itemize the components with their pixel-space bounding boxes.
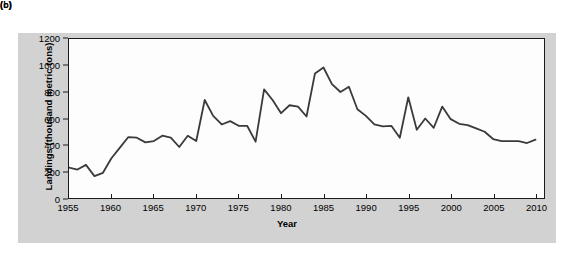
x-tick-mark xyxy=(409,194,410,199)
x-tick-label: 1975 xyxy=(218,202,258,213)
y-tick-label: 800 xyxy=(26,86,60,97)
x-tick-label: 2010 xyxy=(516,202,556,213)
x-tick-mark xyxy=(111,194,112,199)
y-tick-label: 600 xyxy=(26,113,60,124)
figure-panel-b: Landings (thousand metric tons) 02004006… xyxy=(18,33,556,243)
x-tick-label: 1965 xyxy=(133,202,173,213)
y-tick: 600 xyxy=(26,119,68,120)
x-tick-label: 1985 xyxy=(304,202,344,213)
x-tick-mark xyxy=(451,194,452,199)
x-axis-ticks: 1955196019651970197519801985199019952000… xyxy=(68,199,545,200)
y-tick: 1200 xyxy=(26,38,68,39)
data-series-line xyxy=(69,67,536,176)
y-tick: 800 xyxy=(26,92,68,93)
y-tick: 1000 xyxy=(26,65,68,66)
x-tick-label: 1995 xyxy=(389,202,429,213)
x-tick-label: 1970 xyxy=(176,202,216,213)
panel-label-c: (c) xyxy=(0,0,12,10)
y-tick-label: 1200 xyxy=(26,33,60,44)
x-tick-label: 2005 xyxy=(474,202,514,213)
x-tick-label: 1955 xyxy=(48,202,88,213)
x-axis-title: Year xyxy=(18,218,556,229)
x-tick-mark xyxy=(281,194,282,199)
line-chart-svg xyxy=(69,39,544,198)
x-tick-label: 2000 xyxy=(431,202,471,213)
y-tick-label: 1000 xyxy=(26,59,60,70)
y-tick: 400 xyxy=(26,145,68,146)
x-tick-mark xyxy=(238,194,239,199)
x-tick-mark xyxy=(153,194,154,199)
x-tick-mark xyxy=(494,194,495,199)
y-tick-label: 400 xyxy=(26,140,60,151)
x-tick-mark xyxy=(68,194,69,199)
x-tick-mark xyxy=(366,194,367,199)
x-tick-mark xyxy=(324,194,325,199)
y-tick: 200 xyxy=(26,172,68,173)
x-tick-label: 1960 xyxy=(91,202,131,213)
plot-area xyxy=(68,38,545,199)
x-tick-label: 1980 xyxy=(261,202,301,213)
y-tick: 0 xyxy=(26,199,68,200)
x-tick-label: 1990 xyxy=(346,202,386,213)
y-tick-label: 200 xyxy=(26,167,60,178)
x-tick-mark xyxy=(536,194,537,199)
x-tick-mark xyxy=(196,194,197,199)
